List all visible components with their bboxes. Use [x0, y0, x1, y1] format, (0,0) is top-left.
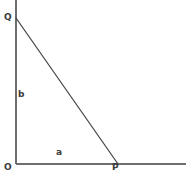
hypotenuse-line-QP — [16, 18, 118, 164]
vertex-label-p: P — [112, 163, 119, 172]
origin-label-o: O — [4, 163, 12, 172]
side-label-a: a — [56, 148, 62, 157]
vertex-label-q: Q — [4, 13, 12, 22]
diagram-canvas: Q O P b a — [0, 0, 193, 180]
side-label-b: b — [18, 90, 24, 99]
geometry-figure — [0, 0, 193, 180]
